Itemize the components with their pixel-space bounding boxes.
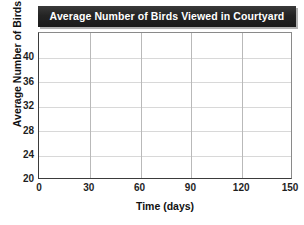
y-tick-label: 20 bbox=[23, 174, 34, 184]
y-tick-label: 40 bbox=[23, 52, 34, 62]
gridline-horizontal bbox=[39, 156, 291, 157]
x-tick-label: 60 bbox=[134, 183, 145, 193]
chart-title-banner: Average Number of Birds Viewed in Courty… bbox=[38, 6, 296, 27]
gridline-vertical bbox=[90, 33, 91, 178]
y-tick-label: 32 bbox=[23, 101, 34, 111]
x-tick-label: 90 bbox=[185, 183, 196, 193]
gridline-horizontal bbox=[39, 107, 291, 108]
y-tick-label: 36 bbox=[23, 77, 34, 87]
gridline-horizontal bbox=[39, 58, 291, 59]
x-axis-tick-labels: 0 30 60 90 120 150 bbox=[38, 183, 292, 196]
plot-area bbox=[38, 32, 292, 179]
y-tick-label: 28 bbox=[23, 126, 34, 136]
x-tick-label: 0 bbox=[36, 183, 42, 193]
x-axis-title: Time (days) bbox=[38, 200, 292, 212]
gridline-horizontal bbox=[39, 82, 291, 83]
gridline-horizontal bbox=[39, 131, 291, 132]
y-tick-label: 24 bbox=[23, 150, 34, 160]
gridlines bbox=[39, 33, 291, 178]
x-tick-label: 150 bbox=[282, 183, 299, 193]
y-axis-title: Average Number of Birds bbox=[11, 0, 23, 139]
gridline-vertical bbox=[191, 33, 192, 178]
x-tick-label: 30 bbox=[83, 183, 94, 193]
gridline-vertical bbox=[242, 33, 243, 178]
chart-title: Average Number of Birds Viewed in Courty… bbox=[50, 11, 285, 22]
x-tick-label: 120 bbox=[233, 183, 250, 193]
gridline-vertical bbox=[141, 33, 142, 178]
